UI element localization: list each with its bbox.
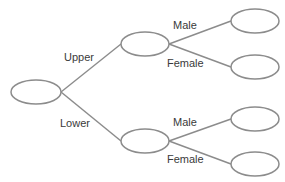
node-upper-female — [231, 55, 279, 79]
branch-label-upper-male: Male — [173, 19, 197, 31]
node-root — [11, 80, 61, 104]
node-lower-female — [231, 152, 279, 176]
tree-diagram: Upper Lower Male Female Male Female — [0, 0, 285, 182]
node-lower — [121, 129, 169, 153]
branch-label-lower: Lower — [60, 117, 90, 129]
branch-label-upper: Upper — [64, 51, 94, 63]
node-upper — [121, 32, 169, 56]
node-upper-male — [231, 9, 279, 33]
branch-label-upper-female: Female — [167, 57, 204, 69]
branch-label-lower-male: Male — [173, 116, 197, 128]
tree-diagram-graphics — [0, 0, 285, 182]
node-lower-male — [231, 107, 279, 131]
branch-label-lower-female: Female — [167, 153, 204, 165]
